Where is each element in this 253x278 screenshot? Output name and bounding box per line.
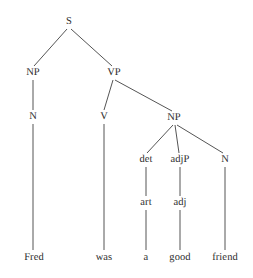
tree-edge-S-to-VP: [71, 29, 112, 66]
tree-edge-NP2-to-adjP: [175, 125, 179, 153]
tree-node-det: det: [139, 155, 152, 166]
tree-terminal-w_was: was: [96, 253, 113, 264]
tree-terminal-w_good: good: [169, 253, 190, 264]
tree-terminal-w_fred: Fred: [24, 253, 44, 264]
tree-node-art: art: [140, 198, 151, 209]
tree-terminal-w_a: a: [144, 253, 149, 264]
tree-node-vp: VP: [107, 68, 121, 79]
tree-edge-layer: [0, 0, 253, 278]
tree-node-n1: N: [29, 112, 37, 123]
tree-node-np1: NP: [26, 68, 40, 79]
syntax-tree-figure: SNPVPNVNPdetadjPNartadjFredwasagoodfrien…: [0, 0, 253, 278]
tree-edge-VP-to-NP2: [115, 80, 172, 111]
tree-terminal-w_friend: friend: [212, 253, 238, 264]
tree-node-np2: NP: [167, 113, 181, 124]
tree-node-v: V: [100, 112, 108, 123]
tree-edge-NP2-to-N2: [177, 125, 223, 153]
tree-node-s: S: [66, 17, 72, 28]
tree-edge-NP2-to-det: [147, 125, 173, 153]
tree-node-n2: N: [221, 155, 229, 166]
tree-edge-S-to-NP1: [34, 29, 67, 66]
tree-node-adjp: adjP: [170, 155, 189, 166]
tree-edge-VP-to-V: [104, 80, 113, 110]
tree-node-adj: adj: [173, 198, 186, 209]
